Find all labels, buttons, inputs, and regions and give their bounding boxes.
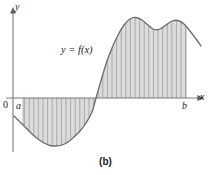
shaded-region-positive (96, 18, 186, 99)
figure-plot (0, 0, 211, 175)
figure-caption: (b) (0, 156, 211, 167)
figure-container: y x 0 a b y = f(x) (b) (0, 0, 211, 175)
y-axis-arrow-icon (10, 7, 16, 14)
x-axis-arrow-icon (197, 95, 204, 101)
